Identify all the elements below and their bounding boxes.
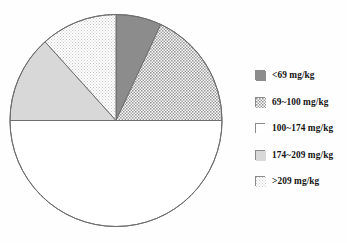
legend-label-100-174: 100~174 mg/kg xyxy=(272,123,333,133)
legend-label-174-209: 174~209 mg/kg xyxy=(272,150,333,160)
solid-dark-gray-swatch-icon xyxy=(255,70,265,80)
chart-legend: <69 mg/kg 69~100 mg/kg 100~174 mg/kg xyxy=(255,62,347,196)
legend-item-69-100[interactable]: 69~100 mg/kg xyxy=(255,89,347,116)
pie-slices-group xyxy=(10,14,222,226)
pie-chart-area xyxy=(0,0,235,243)
legend-item-100-174[interactable]: 100~174 mg/kg xyxy=(255,115,347,142)
fine-dotted-swatch-icon xyxy=(255,176,265,186)
solid-light-gray-swatch-icon xyxy=(255,150,265,160)
legend-item-lt69[interactable]: <69 mg/kg xyxy=(255,62,347,89)
legend-item-174-209[interactable]: 174~209 mg/kg xyxy=(255,142,347,169)
crosshatch-swatch-icon xyxy=(255,97,265,107)
white-swatch-icon xyxy=(255,123,265,133)
pie-slice-100-174[interactable] xyxy=(10,121,222,227)
pie-chart-svg xyxy=(0,0,235,243)
legend-item-gt209[interactable]: >209 mg/kg xyxy=(255,168,347,195)
legend-label-gt209: >209 mg/kg xyxy=(272,176,319,186)
legend-label-69-100: 69~100 mg/kg xyxy=(272,97,328,107)
legend-label-lt69: <69 mg/kg xyxy=(272,70,315,80)
pie-chart-figure: <69 mg/kg 69~100 mg/kg 100~174 mg/kg xyxy=(0,0,347,243)
